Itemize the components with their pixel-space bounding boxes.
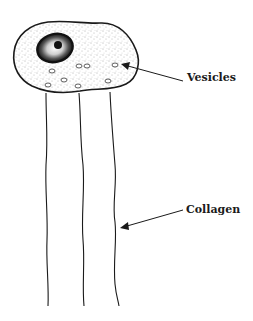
collagen-label: Collagen	[186, 203, 240, 216]
collagen-fibers	[46, 92, 119, 306]
vesicle	[49, 69, 55, 73]
collagen-arrowhead	[120, 222, 129, 230]
vesicle	[105, 79, 111, 83]
vesicle	[45, 83, 51, 87]
vesicle	[112, 63, 118, 67]
vesicle	[61, 78, 67, 82]
cell-body	[14, 21, 139, 92]
collagen-leader-line	[127, 210, 183, 226]
vesicles-label: Vesicles	[187, 71, 236, 84]
collagen-fiber-1	[46, 93, 48, 306]
fibroblast-diagram	[0, 0, 253, 321]
vesicle	[76, 64, 82, 68]
collagen-fiber-3	[110, 92, 119, 306]
vesicle	[84, 64, 90, 68]
collagen-pointer	[120, 210, 183, 230]
collagen-fiber-2	[79, 93, 84, 306]
nucleolus	[54, 41, 62, 49]
vesicle	[75, 84, 81, 88]
